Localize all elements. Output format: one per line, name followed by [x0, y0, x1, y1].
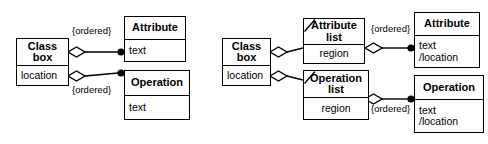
- class-attributes-compartment: region: [304, 45, 364, 63]
- class-name-text: Operation: [131, 77, 183, 89]
- hollow-diamond-aggregation-icon: [270, 47, 287, 57]
- class-box-right-operation[interactable]: Operation text /location: [414, 75, 484, 133]
- association-attributelist-attribute: [365, 43, 415, 53]
- edge-label-ordered: {ordered}: [72, 85, 111, 95]
- association-line: [85, 73, 118, 76]
- class-attributes-compartment: text /location: [415, 100, 483, 132]
- class-name-compartment: Class box: [17, 39, 68, 66]
- class-box-left-operation[interactable]: Operation text: [124, 70, 190, 120]
- association-line: [287, 76, 303, 80]
- class-name-compartment: Class box: [223, 39, 270, 66]
- class-name-text: Operation: [423, 82, 475, 94]
- class-box-right-attribute-list[interactable]: Attribute list region: [303, 18, 365, 64]
- class-box-left-attribute[interactable]: Attribute text: [124, 16, 186, 62]
- edge-label-ordered: {ordered}: [371, 24, 410, 34]
- association-classbox-operationlist: [270, 71, 303, 81]
- class-name-compartment: Attribute: [415, 13, 479, 36]
- class-name-compartment: Operation: [125, 71, 189, 96]
- class-name-compartment: Operation: [415, 76, 483, 100]
- class-name-compartment: Attribute list: [304, 19, 364, 45]
- class-box-right-operation-list[interactable]: Operation list region: [303, 70, 369, 120]
- association-classbox-attribute: [68, 47, 125, 57]
- edge-label-ordered: {ordered}: [371, 104, 410, 114]
- class-name-text: Attribute list: [311, 20, 357, 43]
- class-name-text: Class box: [28, 41, 57, 64]
- class-name-compartment: Operation list: [304, 71, 368, 98]
- hollow-diamond-aggregation-icon: [270, 71, 287, 81]
- class-attributes-compartment: location: [17, 66, 68, 85]
- class-name-text: Operation list: [310, 73, 362, 96]
- class-attributes-compartment: region: [304, 98, 368, 119]
- association-classbox-attributelist: [270, 47, 303, 57]
- class-name-text: Attribute: [132, 22, 178, 34]
- class-attributes-compartment: text: [125, 96, 189, 119]
- class-box-right-classbox[interactable]: Class box location: [222, 38, 271, 86]
- association-classbox-operation: [68, 69, 125, 81]
- hollow-diamond-aggregation-icon: [365, 43, 382, 53]
- hollow-diamond-aggregation-icon: [68, 47, 85, 57]
- class-name-compartment: Attribute: [125, 17, 185, 40]
- class-attributes-compartment: text: [125, 40, 185, 61]
- class-box-left-classbox[interactable]: Class box location: [16, 38, 69, 86]
- association-line: [287, 48, 303, 52]
- class-name-text: Attribute: [424, 18, 470, 30]
- hollow-diamond-aggregation-icon: [68, 71, 85, 81]
- edge-label-ordered: {ordered}: [72, 26, 111, 36]
- uml-diagram-canvas: Class box location Attribute text Operat…: [0, 0, 488, 144]
- class-box-right-attribute[interactable]: Attribute text /location: [414, 12, 480, 68]
- class-name-text: Class box: [232, 41, 261, 64]
- class-attributes-compartment: location: [223, 66, 270, 85]
- class-attributes-compartment: text /location: [415, 36, 479, 67]
